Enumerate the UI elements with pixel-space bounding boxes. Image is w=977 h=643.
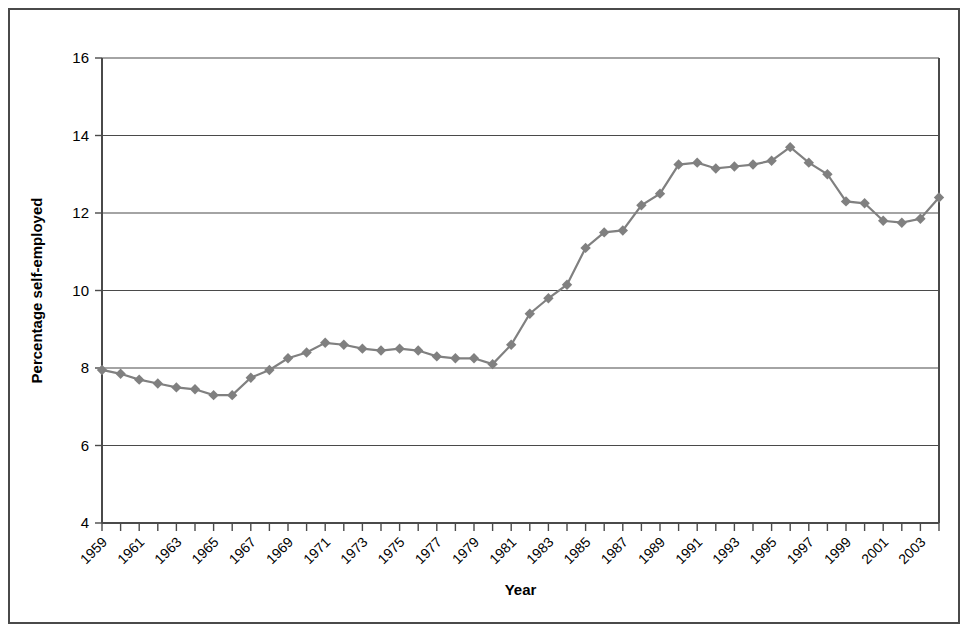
- data-point-marker: [673, 159, 683, 169]
- x-tick-label: 1965: [188, 534, 221, 567]
- figure-frame: 46810121416 1959196119631965196719691971…: [8, 8, 960, 624]
- data-markers-group: [97, 142, 944, 400]
- gridlines-group: [102, 58, 939, 523]
- data-point-marker: [692, 157, 702, 167]
- data-point-marker: [208, 390, 218, 400]
- x-tick-label: 1989: [635, 534, 668, 567]
- x-tickmarks-group: [102, 523, 939, 531]
- data-point-marker: [171, 382, 181, 392]
- y-tick-label: 8: [81, 359, 89, 376]
- x-tick-label: 1987: [598, 534, 631, 567]
- x-tick-label: 2003: [895, 534, 928, 567]
- data-point-marker: [320, 338, 330, 348]
- data-point-marker: [134, 374, 144, 384]
- data-point-marker: [357, 343, 367, 353]
- chart-area: 46810121416 1959196119631965196719691971…: [10, 10, 958, 622]
- x-axis-title: Year: [505, 581, 537, 598]
- x-tick-label: 1981: [486, 534, 519, 567]
- data-point-marker: [190, 384, 200, 394]
- data-point-marker: [729, 161, 739, 171]
- x-tick-label: 1971: [300, 534, 333, 567]
- data-point-marker: [115, 369, 125, 379]
- data-point-marker: [264, 365, 274, 375]
- data-point-marker: [748, 159, 758, 169]
- y-tick-label: 14: [72, 127, 89, 144]
- data-point-marker: [301, 347, 311, 357]
- y-tickmarks-group: [95, 58, 102, 523]
- y-axis-title: Percentage self-employed: [28, 198, 45, 384]
- x-tick-label: 2001: [858, 534, 891, 567]
- x-tick-label: 1959: [77, 534, 110, 567]
- data-point-marker: [376, 345, 386, 355]
- x-tick-label: 1967: [226, 534, 259, 567]
- data-point-marker: [432, 351, 442, 361]
- data-point-marker: [283, 353, 293, 363]
- x-tick-label: 1991: [672, 534, 705, 567]
- x-tick-label: 1999: [821, 534, 854, 567]
- data-point-marker: [655, 188, 665, 198]
- x-tick-label: 1973: [337, 534, 370, 567]
- y-tick-label: 12: [72, 204, 89, 221]
- x-tick-label: 1993: [709, 534, 742, 567]
- x-tick-label: 1997: [784, 534, 817, 567]
- x-tick-label: 1961: [114, 534, 147, 567]
- data-series-line: [102, 147, 939, 395]
- x-tick-label: 1977: [412, 534, 445, 567]
- y-axis-tick-labels: 46810121416: [72, 49, 89, 531]
- data-point-marker: [897, 217, 907, 227]
- x-tick-label: 1969: [263, 534, 296, 567]
- data-point-marker: [711, 163, 721, 173]
- x-tick-label: 1983: [523, 534, 556, 567]
- data-point-marker: [153, 378, 163, 388]
- y-tick-label: 16: [72, 49, 89, 66]
- data-point-marker: [97, 365, 107, 375]
- x-tick-label: 1963: [151, 534, 184, 567]
- x-tick-label: 1995: [746, 534, 779, 567]
- y-tick-label: 6: [81, 437, 89, 454]
- x-tick-label: 1985: [560, 534, 593, 567]
- data-point-marker: [394, 343, 404, 353]
- x-tick-label: 1979: [449, 534, 482, 567]
- data-point-marker: [469, 353, 479, 363]
- x-axis-tick-labels: 1959196119631965196719691971197319751977…: [77, 534, 929, 567]
- data-point-marker: [413, 345, 423, 355]
- line-chart-svg: 46810121416 1959196119631965196719691971…: [10, 10, 962, 626]
- y-tick-label: 4: [81, 514, 89, 531]
- y-tick-label: 10: [72, 282, 89, 299]
- x-tick-label: 1975: [374, 534, 407, 567]
- data-point-marker: [339, 340, 349, 350]
- data-point-marker: [450, 353, 460, 363]
